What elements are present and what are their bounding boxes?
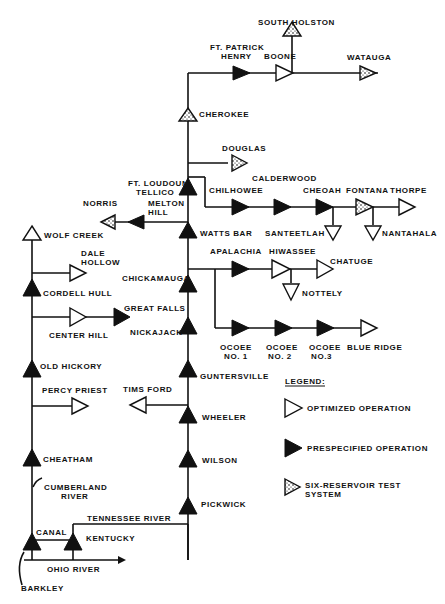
- legend-optimized-icon: [285, 399, 302, 417]
- legend-prespecified-icon: [285, 439, 302, 457]
- label-boone: BOONE: [264, 52, 296, 61]
- label-chickamauga: CHICKAMAUGA: [122, 274, 190, 283]
- label-ocoee1-a: OCOEE: [220, 343, 252, 352]
- guntersville-icon: [179, 360, 197, 377]
- dale-hollow-icon: [70, 265, 86, 281]
- label-watauga: WATAUGA: [347, 53, 391, 62]
- norris-icon: [101, 215, 115, 229]
- wheeler-icon: [179, 406, 197, 423]
- label-watts-bar: WATTS BAR: [200, 229, 252, 238]
- label-cherokee: CHEROKEE: [199, 110, 249, 119]
- label-ocoee3-a: OCOEE: [309, 343, 341, 352]
- label-percy-priest: PERCY PRIEST: [42, 386, 108, 395]
- label-guntersville: GUNTERSVILLE: [200, 372, 269, 381]
- ocoee-2-icon: [275, 320, 292, 336]
- label-ocoee3-b: NO.3: [311, 352, 332, 361]
- label-chilhowee: CHILHOWEE: [209, 186, 263, 195]
- label-wheeler: WHEELER: [202, 413, 246, 422]
- label-tellico: TELLICO: [136, 188, 174, 197]
- old-hickory-icon: [23, 360, 41, 377]
- hiwassee-icon: [272, 260, 290, 278]
- cordell-hull-icon: [23, 279, 41, 296]
- cheatham-icon: [23, 449, 41, 466]
- legend-optimized-label: OPTIMIZED OPERATION: [307, 404, 411, 413]
- label-blue-ridge: BLUE RIDGE: [347, 343, 402, 352]
- label-south-holston: SOUTH HOLSTON: [258, 18, 335, 27]
- label-calderwood: CALDERWOOD: [252, 174, 317, 183]
- legend-six-reservoir-label-1: SIX-RESERVOIR TEST: [305, 481, 401, 490]
- label-kentucky: KENTUCKY: [86, 534, 135, 543]
- label-hill: HILL: [148, 208, 168, 217]
- label-santeetlah: SANTEETLAH: [265, 229, 325, 238]
- label-tennessee-river: TENNESSEE RIVER: [87, 514, 171, 523]
- label-canal: CANAL: [36, 528, 67, 537]
- nottely-icon: [283, 284, 299, 300]
- ft-patrick-henry-icon: [233, 66, 250, 80]
- label-ocoee1-b: NO. 1: [224, 352, 248, 361]
- label-cheatham: CHEATHAM: [43, 455, 93, 464]
- label-apalachia: APALACHIA: [210, 247, 262, 256]
- blue-ridge-icon: [361, 320, 377, 336]
- percy-priest-icon: [72, 398, 88, 414]
- label-hollow: HOLLOW: [81, 258, 120, 267]
- arrow-head-icon: [118, 556, 126, 564]
- label-cumberland: CUMBERLAND: [44, 483, 107, 492]
- label-nottely: NOTTELY: [302, 289, 343, 298]
- reservoir-labels: SOUTH HOLSTON FT. PATRICK HENRY BOONE WA…: [21, 18, 437, 593]
- legend: LEGEND: OPTIMIZED OPERATION PRESPECIFIED…: [285, 377, 428, 499]
- legend-six-reservoir-label-2: SYSTEM: [305, 490, 342, 499]
- label-chatuge: CHATUGE: [330, 257, 373, 266]
- label-center-hill: CENTER HILL: [49, 331, 109, 340]
- label-great-falls: GREAT FALLS: [124, 304, 186, 313]
- apalachia-icon: [232, 261, 249, 277]
- label-ohio-river: OHIO RIVER: [47, 565, 100, 574]
- legend-title: LEGEND:: [285, 377, 325, 386]
- label-ft-loudoun: FT. LOUDOUN: [128, 179, 188, 188]
- nantahala-icon: [365, 226, 381, 240]
- cherokee-icon: [179, 108, 197, 121]
- label-ocoee2-b: NO. 2: [268, 352, 292, 361]
- watauga-icon: [360, 66, 376, 80]
- label-nickajack: NICKAJACK: [130, 328, 183, 337]
- boone-icon: [276, 65, 293, 81]
- label-melton: MELTON: [148, 199, 185, 208]
- label-cordell-hull: CORDELL HULL: [43, 289, 112, 298]
- douglas-icon: [232, 155, 247, 171]
- legend-prespecified-label: PRESPECIFIED OPERATION: [307, 444, 428, 453]
- ocoee-3-icon: [317, 320, 334, 336]
- label-nantahala: NANTAHALA: [382, 229, 437, 238]
- label-barkley: BARKLEY: [21, 584, 64, 593]
- ocoee-1-icon: [232, 320, 249, 336]
- wolf-creek-icon: [23, 226, 41, 240]
- pickwick-icon: [179, 497, 197, 514]
- calderwood-icon: [274, 199, 291, 215]
- reservoir-symbols: [23, 22, 415, 550]
- label-ocoee2-a: OCOEE: [266, 343, 298, 352]
- reservoir-schematic: SOUTH HOLSTON FT. PATRICK HENRY BOONE WA…: [0, 0, 445, 604]
- label-norris: NORRIS: [83, 199, 118, 208]
- santeetlah-icon: [325, 226, 341, 240]
- label-cheoah: CHEOAH: [303, 186, 341, 195]
- label-pickwick: PICKWICK: [201, 500, 246, 509]
- tims-ford-icon: [130, 397, 146, 413]
- label-wolf-creek: WOLF CREEK: [44, 231, 104, 240]
- label-old-hickory: OLD HICKORY: [40, 362, 102, 371]
- label-wilson: WILSON: [202, 456, 238, 465]
- chilhowee-icon: [232, 199, 249, 215]
- label-fontana: FONTANA: [346, 186, 389, 195]
- label-douglas: DOUGLAS: [222, 144, 266, 153]
- wilson-icon: [179, 450, 197, 467]
- label-tims-ford: TIMS FORD: [123, 385, 172, 394]
- watts-bar-icon: [179, 222, 197, 238]
- label-thorpe: THORPE: [390, 186, 427, 195]
- center-hill-icon: [70, 308, 86, 326]
- label-cumberland-river: RIVER: [61, 492, 88, 501]
- label-hiwassee: HIWASSEE: [269, 247, 316, 256]
- melton-hill-icon: [128, 215, 144, 229]
- label-henry: HENRY: [221, 52, 252, 61]
- label-ft-patrick: FT. PATRICK: [210, 43, 264, 52]
- cheoah-icon: [316, 199, 333, 215]
- label-dale: DALE: [81, 249, 105, 258]
- thorpe-icon: [399, 199, 415, 215]
- legend-six-reservoir-icon: [285, 479, 300, 495]
